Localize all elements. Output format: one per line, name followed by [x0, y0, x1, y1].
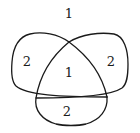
label-left-lobe: 2 [23, 54, 31, 69]
label-outer-top: 1 [65, 6, 73, 21]
label-right-lobe: 2 [107, 54, 115, 69]
inner-left-arc [36, 42, 107, 126]
region-diagram: 1 2 1 2 2 [0, 0, 140, 133]
label-center: 1 [65, 65, 73, 80]
inner-right-arc [69, 42, 107, 97]
label-bottom-lobe: 2 [63, 104, 71, 119]
